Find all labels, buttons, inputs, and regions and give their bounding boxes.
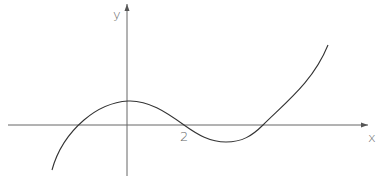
tick-label-2: 2 [180,129,188,144]
function-graph: y x 2 [0,0,389,184]
function-curve [52,45,328,170]
x-axis-label: x [368,130,376,145]
y-axis-label: y [113,7,121,22]
